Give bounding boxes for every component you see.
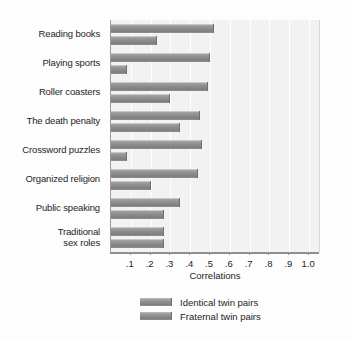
bar-group [111, 227, 319, 236]
category-label-line: sex roles [0, 238, 100, 249]
bar-group [111, 140, 319, 149]
category-label: Playing sports [0, 58, 100, 69]
bar [111, 24, 214, 33]
category-label: Public speaking [0, 203, 100, 214]
bar [111, 239, 164, 248]
category-label: Traditionalsex roles [0, 227, 100, 248]
bar-chart-figure: Reading booksPlaying sportsRoller coaste… [0, 0, 353, 340]
bar [111, 227, 164, 236]
bar-group [111, 82, 319, 91]
x-axis-tick-mark [169, 252, 170, 255]
bar-group [111, 65, 319, 74]
x-axis-tick-label: 1.0 [296, 258, 320, 269]
bar [111, 169, 198, 178]
category-label-line: The death penalty [0, 116, 100, 127]
category-label-line: Traditional [0, 227, 100, 238]
plot-right-edge [319, 20, 320, 252]
bar [111, 94, 170, 103]
x-axis-tick-mark [130, 252, 131, 255]
legend-item: Identical twin pairs [140, 296, 340, 308]
category-label-line: Playing sports [0, 58, 100, 69]
bar-group [111, 123, 319, 132]
x-axis-tick-mark [288, 252, 289, 255]
x-axis-tick-mark [150, 252, 151, 255]
bar-group [111, 111, 319, 120]
x-axis-tick-mark [308, 252, 309, 255]
bar [111, 210, 164, 219]
category-axis-labels: Reading booksPlaying sportsRoller coaste… [0, 20, 104, 252]
bar [111, 198, 180, 207]
category-label-line: Organized religion [0, 174, 100, 185]
x-axis-tick-mark [189, 252, 190, 255]
category-label-line: Roller coasters [0, 87, 100, 98]
bar-group [111, 24, 319, 33]
bar-group [111, 239, 319, 248]
chart-legend: Identical twin pairsFraternal twin pairs [140, 296, 340, 324]
bar-group [111, 94, 319, 103]
x-axis-tick-mark [249, 252, 250, 255]
bar-group [111, 198, 319, 207]
x-axis-tick-labels: .1.2.3.4.5.6.7.8.91.0 [110, 255, 320, 271]
legend-swatch [140, 312, 172, 320]
category-label: The death penalty [0, 116, 100, 127]
bar-group [111, 210, 319, 219]
category-label-line: Reading books [0, 29, 100, 40]
bar [111, 140, 202, 149]
category-label: Organized religion [0, 174, 100, 185]
x-axis-tick-mark [229, 252, 230, 255]
legend-label: Identical twin pairs [180, 297, 258, 308]
x-axis-tick-mark [268, 252, 269, 255]
legend-label: Fraternal twin pairs [180, 311, 261, 322]
bar-group [111, 53, 319, 62]
bar-group [111, 36, 319, 45]
x-axis-title: Correlations [110, 270, 320, 281]
category-label-line: Public speaking [0, 203, 100, 214]
bar-group [111, 169, 319, 178]
bar-group [111, 152, 319, 161]
bar [111, 181, 151, 190]
bar [111, 82, 208, 91]
bar [111, 53, 210, 62]
category-label: Roller coasters [0, 87, 100, 98]
legend-swatch [140, 298, 172, 306]
bar [111, 36, 157, 45]
x-axis-tick-mark [209, 252, 210, 255]
bar [111, 111, 200, 120]
category-label: Reading books [0, 29, 100, 40]
category-label: Crossword puzzles [0, 145, 100, 156]
category-label-line: Crossword puzzles [0, 145, 100, 156]
bar-group [111, 181, 319, 190]
bar [111, 65, 127, 74]
plot-area [110, 20, 319, 252]
bar [111, 152, 127, 161]
bar [111, 123, 180, 132]
legend-item: Fraternal twin pairs [140, 310, 340, 322]
